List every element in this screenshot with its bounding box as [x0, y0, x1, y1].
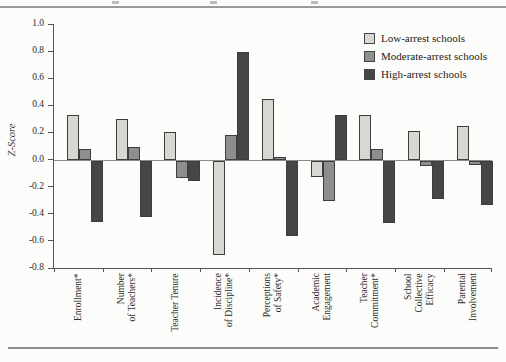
cropped-text-remnant	[311, 1, 318, 4]
legend-item-moderate-arrest-schools: Moderate-arrest schools	[364, 50, 487, 62]
bar-low-arrest-schools-perceptions-of-safety	[262, 99, 274, 160]
bar-high-arrest-schools-number-of-teachers	[140, 161, 152, 218]
y-tick	[48, 268, 53, 269]
x-label-teacher-tenure: Teacher Tenure	[170, 273, 181, 351]
x-tick	[395, 268, 396, 272]
legend-swatch-moderate-arrest-schools	[364, 51, 375, 62]
x-tick	[346, 268, 347, 272]
bar-moderate-arrest-schools-teacher-tenure	[176, 161, 188, 179]
x-label-line: Enrollment*	[73, 273, 84, 351]
bar-moderate-arrest-schools-academic-engagement	[323, 161, 335, 202]
bar-moderate-arrest-schools-perceptions-of-safety	[274, 157, 286, 160]
x-label-academic-engagement: AcademicEngagement	[311, 273, 333, 351]
y-tick	[48, 132, 53, 133]
bar-moderate-arrest-schools-enrollment	[79, 149, 91, 160]
bar-low-arrest-schools-school-collective-efficacy	[408, 131, 420, 159]
bar-moderate-arrest-schools-incidence-of-discipline	[225, 135, 237, 159]
legend-label: Low-arrest schools	[381, 32, 465, 44]
legend-swatch-low-arrest-schools	[364, 33, 375, 44]
x-label-line: Commitment*	[370, 273, 381, 351]
x-tick	[249, 268, 250, 272]
y-tick-label: -0.2	[12, 181, 44, 191]
bar-low-arrest-schools-parental-involvement	[457, 126, 469, 160]
x-label-line: Engagement	[322, 273, 333, 351]
x-label-line: Teacher Tenure	[170, 273, 181, 351]
x-label-line: Involvement	[468, 273, 479, 351]
bar-low-arrest-schools-academic-engagement	[311, 161, 323, 177]
x-label-school-collective-efficacy: SchoolCollectiveEfficacy	[402, 273, 435, 351]
legend: Low-arrest schoolsModerate-arrest school…	[364, 32, 487, 86]
y-tick	[48, 240, 53, 241]
legend-swatch-high-arrest-schools	[364, 69, 375, 80]
x-label-perceptions-of-safety: Perceptionsof Safety*	[262, 273, 284, 351]
bar-high-arrest-schools-school-collective-efficacy	[432, 161, 444, 199]
legend-label: High-arrest schools	[381, 68, 467, 80]
y-tick-label: -0.6	[12, 235, 44, 245]
cropped-text-remnant	[210, 1, 217, 4]
bar-high-arrest-schools-incidence-of-discipline	[237, 52, 249, 159]
y-tick	[48, 78, 53, 79]
legend-item-high-arrest-schools: High-arrest schools	[364, 68, 487, 80]
bar-high-arrest-schools-teacher-tenure	[188, 161, 200, 181]
y-tick-label: 0.6	[12, 72, 44, 82]
y-tick-label: -0.4	[12, 208, 44, 218]
x-label-line: Teacher	[359, 273, 370, 351]
bar-moderate-arrest-schools-school-collective-efficacy	[420, 161, 432, 166]
y-tick-label: 0.4	[12, 99, 44, 109]
x-label-line: Perceptions	[262, 273, 273, 351]
x-tick	[200, 268, 201, 272]
x-label-parental-involvement: ParentalInvolvement	[457, 273, 479, 351]
bar-moderate-arrest-schools-teacher-commitment	[371, 149, 383, 160]
x-label-line: of Safety*	[273, 273, 284, 351]
legend-item-low-arrest-schools: Low-arrest schools	[364, 32, 487, 44]
bar-high-arrest-schools-perceptions-of-safety	[286, 161, 298, 237]
y-tick-label: -0.8	[12, 262, 44, 272]
x-label-line: Parental	[457, 273, 468, 351]
bar-high-arrest-schools-academic-engagement	[335, 115, 347, 160]
x-tick	[491, 268, 492, 272]
x-tick	[54, 268, 55, 272]
bar-low-arrest-schools-incidence-of-discipline	[213, 161, 225, 256]
y-tick	[48, 213, 53, 214]
x-label-number-of-teachers: Numberof Teachers*	[116, 273, 138, 351]
y-tick	[48, 186, 53, 187]
bar-high-arrest-schools-teacher-commitment	[383, 161, 395, 223]
y-tick	[48, 24, 53, 25]
bar-low-arrest-schools-enrollment	[67, 115, 79, 160]
bottom-rule	[8, 347, 498, 349]
bar-moderate-arrest-schools-number-of-teachers	[128, 147, 140, 159]
x-tick	[444, 268, 445, 272]
scanned-figure: Z-Score 1.00.80.60.40.20.0-0.2-0.4-0.6-0…	[0, 0, 506, 362]
x-label-line: School	[402, 273, 413, 351]
x-tick	[298, 268, 299, 272]
x-tick	[151, 268, 152, 272]
y-tick-label: 0.8	[12, 45, 44, 55]
bar-high-arrest-schools-enrollment	[91, 161, 103, 222]
top-rule	[0, 6, 506, 8]
x-label-line: Collective	[413, 273, 424, 351]
x-label-enrollment: Enrollment*	[73, 273, 84, 351]
x-label-line: Number	[116, 273, 127, 351]
y-tick-label: 0.0	[12, 154, 44, 164]
bar-low-arrest-schools-teacher-commitment	[359, 115, 371, 160]
x-label-line: Incidence	[213, 273, 224, 351]
bar-high-arrest-schools-parental-involvement	[481, 161, 493, 206]
x-label-line: of Discipline*	[224, 273, 235, 351]
cropped-text-remnant	[112, 1, 119, 4]
x-tick	[103, 268, 104, 272]
x-label-incidence-of-discipline: Incidenceof Discipline*	[213, 273, 235, 351]
bar-low-arrest-schools-teacher-tenure	[164, 132, 176, 159]
y-tick	[48, 159, 53, 160]
bar-moderate-arrest-schools-parental-involvement	[469, 161, 481, 165]
y-tick-label: 1.0	[12, 18, 44, 28]
x-label-teacher-commitment: TeacherCommitment*	[359, 273, 381, 351]
legend-label: Moderate-arrest schools	[381, 50, 487, 62]
bar-low-arrest-schools-number-of-teachers	[116, 119, 128, 160]
x-label-line: of Teachers*	[127, 273, 138, 351]
x-label-line: Academic	[311, 273, 322, 351]
y-tick-label: 0.2	[12, 126, 44, 136]
y-tick	[48, 51, 53, 52]
y-tick	[48, 105, 53, 106]
x-label-line: Efficacy	[424, 273, 435, 351]
